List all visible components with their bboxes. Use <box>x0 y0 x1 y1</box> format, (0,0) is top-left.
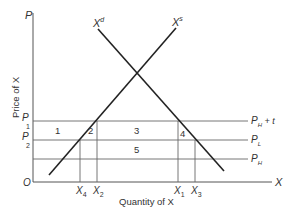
area-label-3: 3 <box>134 125 139 136</box>
y-axis-title: Price of X <box>10 76 21 118</box>
quantity-label-x3: X3 <box>190 185 202 198</box>
price-label-ph-plus-t: PH + t <box>251 115 275 128</box>
supply-label: Xs <box>171 15 183 28</box>
quantity-label-x2: X2 <box>92 185 104 198</box>
y-axis-letter: P <box>25 9 33 21</box>
quantity-label-x4: X4 <box>75 185 87 198</box>
area-label-5: 5 <box>134 144 139 155</box>
price-label-ph: PH <box>251 153 263 166</box>
area-label-4: 4 <box>180 128 185 139</box>
area-label-2: 2 <box>88 125 93 136</box>
x-axis-title: Quantity of X <box>119 196 175 207</box>
price-label-pl: PL <box>251 134 261 147</box>
demand-curve <box>98 29 224 171</box>
supply-curve <box>49 28 176 175</box>
quantity-label-x1: X1 <box>173 185 185 198</box>
supply-demand-diagram: P X O Price of X Quantity of X Xd Xs P1 … <box>0 0 290 216</box>
area-label-1: 1 <box>55 125 60 136</box>
origin-label: O <box>23 177 31 188</box>
demand-label: Xd <box>92 16 105 29</box>
price-label-p1: P1 <box>22 112 30 130</box>
x-axis-letter: X <box>274 176 283 188</box>
price-label-p2: P2 <box>22 131 30 149</box>
